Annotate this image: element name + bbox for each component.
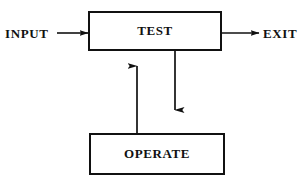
node-operate-label: OPERATE [124, 146, 190, 162]
node-operate: OPERATE [89, 133, 225, 175]
node-test-label: TEST [137, 23, 173, 39]
diagram-canvas: TEST OPERATE INPUT EXIT [0, 0, 299, 183]
terminal-label-exit: EXIT [263, 26, 297, 42]
terminal-label-input: INPUT [5, 26, 48, 42]
node-test: TEST [88, 11, 222, 51]
